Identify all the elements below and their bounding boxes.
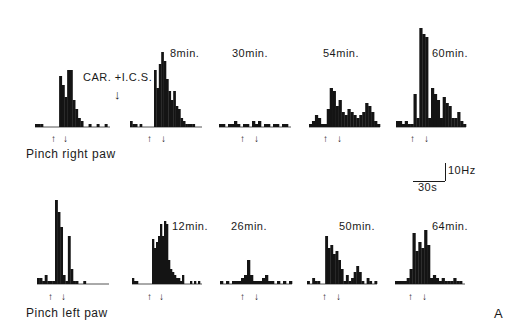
pinch-end-arrow-icon: ↓	[337, 134, 342, 144]
histogram-bars	[396, 15, 466, 127]
time-label-50min: 50min.	[339, 220, 375, 232]
pinch-start-arrow-icon: ↑	[323, 134, 328, 144]
pinch-end-arrow-icon: ↓	[336, 292, 341, 302]
scale-bar: 10Hz 30s	[413, 163, 463, 193]
time-label-60min: 60min.	[432, 47, 468, 59]
pinch-start-arrow-icon: ↑	[48, 292, 53, 302]
histogram-left-26min	[220, 200, 292, 284]
histogram-left-64min	[395, 200, 465, 284]
row-label-left-paw: Pinch left paw	[26, 306, 108, 320]
histogram-bars	[132, 200, 202, 284]
histogram-bars	[37, 180, 109, 284]
time-label-8min: 8min.	[170, 47, 199, 59]
time-label-12min: 12min.	[172, 220, 208, 232]
pinch-end-arrow-icon: ↓	[422, 292, 427, 302]
histogram-right-8min	[130, 15, 202, 127]
time-label-30min: 30min.	[232, 47, 268, 59]
histogram-right-60min	[396, 15, 466, 127]
histogram-bars	[219, 30, 291, 127]
pinch-end-arrow-icon: ↓	[61, 292, 66, 302]
scale-bar-y-label: 10Hz	[448, 164, 476, 176]
histogram-left-control	[37, 180, 109, 284]
time-label-26min: 26min.	[231, 220, 267, 232]
pinch-start-arrow-icon: ↑	[147, 134, 152, 144]
pinch-end-arrow-icon: ↓	[424, 134, 429, 144]
row-label-right-paw: Pinch right paw	[26, 147, 116, 161]
pinch-end-arrow-icon: ↓	[63, 134, 68, 144]
time-label-54min: 54min.	[323, 47, 359, 59]
pinch-end-arrow-icon: ↓	[254, 292, 259, 302]
time-label-64min: 64min.	[432, 220, 468, 232]
pinch-start-arrow-icon: ↑	[322, 292, 327, 302]
pinch-start-arrow-icon: ↑	[410, 134, 415, 144]
pinch-start-arrow-icon: ↑	[408, 292, 413, 302]
pinch-start-arrow-icon: ↑	[240, 134, 245, 144]
pinch-end-arrow-icon: ↓	[159, 292, 164, 302]
pinch-start-arrow-icon: ↑	[240, 292, 245, 302]
histogram-bars	[395, 200, 465, 284]
scale-bar-x-label: 30s	[418, 181, 437, 193]
histogram-right-54min	[309, 30, 380, 127]
panel-letter: A	[494, 306, 503, 321]
histogram-bars	[307, 200, 377, 284]
pinch-end-arrow-icon: ↓	[161, 134, 166, 144]
scale-bar-vertical-line	[445, 163, 446, 181]
histogram-bars	[309, 30, 380, 127]
pinch-start-arrow-icon: ↑	[147, 292, 152, 302]
histogram-bars	[130, 15, 202, 127]
histogram-bars	[220, 200, 292, 284]
histogram-right-30min	[219, 30, 291, 127]
histogram-left-50min	[307, 200, 377, 284]
histogram-left-12min	[132, 200, 202, 284]
treatment-down-arrow-icon: ↓	[114, 90, 121, 100]
pinch-start-arrow-icon: ↑	[51, 134, 56, 144]
pinch-end-arrow-icon: ↓	[254, 134, 259, 144]
